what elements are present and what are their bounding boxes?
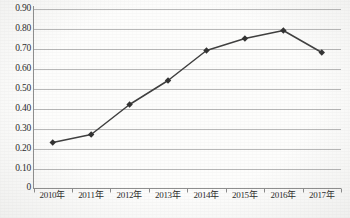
gridlines bbox=[34, 10, 342, 170]
series-markers bbox=[50, 27, 325, 145]
x-tick-label: 2011年 bbox=[72, 189, 111, 209]
plot-canvas bbox=[0, 0, 350, 218]
series-line bbox=[53, 31, 322, 143]
data-point-marker bbox=[280, 27, 286, 33]
x-tick-label: 2013年 bbox=[149, 189, 188, 209]
x-tick-label: 2012年 bbox=[110, 189, 149, 209]
data-point-marker bbox=[319, 49, 325, 55]
x-tick-label: 2014年 bbox=[187, 189, 226, 209]
x-tick-label: 2016年 bbox=[264, 189, 303, 209]
x-tick-label: 2015年 bbox=[226, 189, 265, 209]
x-axis-tick-labels: 2010年 2011年 2012年 2013年 2014年 2015年 2016… bbox=[33, 189, 341, 209]
chart-page: 0.90 0.80 0.70 0.60 0.50 0.40 0.30 0.20 … bbox=[0, 0, 350, 218]
x-tick-label: 2017年 bbox=[303, 189, 342, 209]
line-chart: 0.90 0.80 0.70 0.60 0.50 0.40 0.30 0.20 … bbox=[0, 0, 350, 218]
axes bbox=[33, 6, 341, 189]
data-point-marker bbox=[242, 35, 248, 41]
x-tick-label: 2010年 bbox=[33, 189, 72, 209]
data-point-marker bbox=[50, 139, 56, 145]
